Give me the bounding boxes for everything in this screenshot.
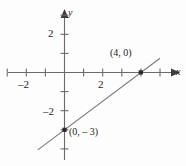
- y-tick-label-neg2: –2: [43, 106, 54, 117]
- point-marker-0-neg3: [62, 128, 66, 132]
- x-axis-label: x: [176, 67, 180, 77]
- point-marker-4-0: [139, 70, 143, 74]
- point-label-4-0: (4, 0): [110, 48, 132, 58]
- y-tick-label-2: 2: [48, 28, 54, 39]
- point-label-0-neg3: (0, – 3): [69, 127, 98, 137]
- coordinate-plane-figure: –2 2 2 –2 x y (4, 0) (0, – 3): [0, 0, 186, 166]
- x-tick-label-2: 2: [98, 79, 104, 90]
- y-axis-label: y: [68, 8, 72, 18]
- x-tick-label-neg2: –2: [18, 79, 29, 90]
